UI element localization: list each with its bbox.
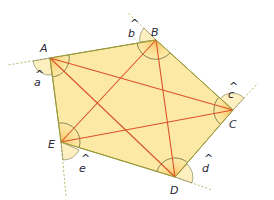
vertex-label-d: D xyxy=(170,184,178,197)
diagram-canvas: A B C D E ^ a ^ b ^ c ^ d ^ e xyxy=(0,0,274,200)
angle-label-b: b xyxy=(128,27,135,40)
pentagon-diagram: A B C D E ^ a ^ b ^ c ^ d ^ e xyxy=(0,0,274,200)
vertex-label-c: C xyxy=(229,118,237,131)
angle-label-a: a xyxy=(34,76,41,89)
angle-label-e: e xyxy=(79,162,86,175)
vertex-label-e: E xyxy=(48,138,55,151)
vertex-label-b: B xyxy=(151,26,159,39)
angle-label-d: d xyxy=(202,162,210,175)
vertex-label-a: A xyxy=(39,42,48,55)
angle-label-c: c xyxy=(228,88,234,101)
